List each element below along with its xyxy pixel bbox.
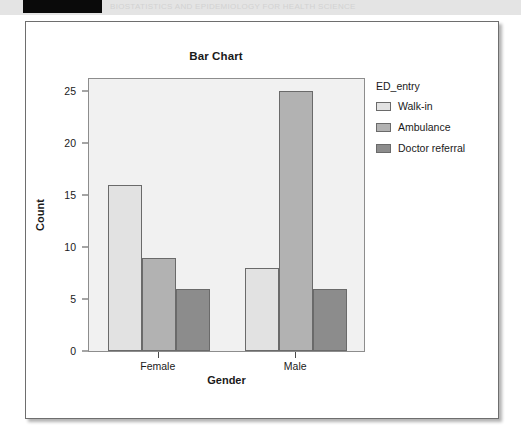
running-header-text: BIOSTATISTICS AND EPIDEMIOLOGY FOR HEALT… — [110, 0, 510, 13]
legend-title: ED_entry — [376, 80, 496, 92]
legend-item-label: Ambulance — [398, 121, 451, 133]
bar-female-walk-in — [108, 185, 142, 351]
bar-female-ambulance — [142, 258, 176, 351]
bar-female-doctor-referral — [176, 289, 210, 351]
legend: ED_entry Walk-inAmbulanceDoctor referral — [376, 80, 496, 163]
bar-male-ambulance — [279, 91, 313, 351]
x-tick-label-male: Male — [284, 360, 307, 372]
legend-item-label: Walk-in — [398, 100, 433, 112]
y-axis-title: Count — [34, 78, 48, 352]
legend-swatch-icon — [376, 102, 391, 111]
chart-card: Bar Chart 0510152025 Count FemaleMale Ge… — [25, 21, 499, 419]
bar-male-walk-in — [245, 268, 279, 351]
y-tick-label: 15 — [64, 189, 76, 201]
y-tick-label: 25 — [64, 85, 76, 97]
redacted-header-block — [23, 0, 102, 13]
chart-title: Bar Chart — [66, 50, 366, 62]
x-tick-mark — [158, 352, 159, 358]
y-tick-label: 5 — [70, 293, 76, 305]
x-tick-label-female: Female — [140, 360, 175, 372]
y-tick-label: 0 — [70, 345, 76, 357]
bar-male-doctor-referral — [313, 289, 347, 351]
bars-layer — [89, 79, 364, 351]
legend-item-doctor-referral[interactable]: Doctor referral — [376, 142, 496, 154]
y-tick-label: 20 — [64, 137, 76, 149]
y-tick-label: 10 — [64, 241, 76, 253]
x-axis: FemaleMale — [88, 352, 365, 392]
legend-swatch-icon — [376, 144, 391, 153]
legend-item-walk-in[interactable]: Walk-in — [376, 100, 496, 112]
bar-chart-figure: Bar Chart 0510152025 Count FemaleMale Ge… — [26, 22, 498, 418]
x-axis-title: Gender — [88, 374, 365, 386]
legend-item-ambulance[interactable]: Ambulance — [376, 121, 496, 133]
legend-swatch-icon — [376, 123, 391, 132]
page-header-strip: BIOSTATISTICS AND EPIDEMIOLOGY FOR HEALT… — [0, 0, 521, 15]
legend-item-label: Doctor referral — [398, 142, 465, 154]
x-tick-mark — [295, 352, 296, 358]
plot-area — [88, 78, 365, 352]
